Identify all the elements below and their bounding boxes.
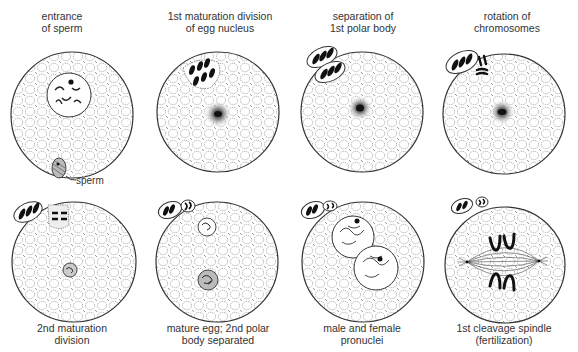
label-line: male and female (292, 322, 432, 334)
stage-label-second-maturation-division: 2nd maturation division (2, 322, 142, 346)
label-line: separation of (293, 10, 433, 22)
stage-label-separation-first-polar-body: separation of 1st polar body (293, 10, 433, 34)
label-line: rotation of (437, 10, 577, 22)
label-line: 2nd maturation (2, 322, 142, 334)
egg-male-female-pronuclei (290, 190, 435, 320)
stage-label-first-maturation-division: 1st maturation division of egg nucleus (140, 10, 300, 34)
egg-rotation-of-chromosomes (432, 40, 577, 185)
label-line: pronuclei (292, 334, 432, 346)
label-line: of sperm (0, 22, 132, 34)
label-line: (fertilization) (434, 334, 574, 346)
egg-second-maturation-division (0, 190, 145, 320)
label-line: of egg nucleus (140, 22, 300, 34)
stage-label-rotation-of-chromosomes: rotation of chromosomes (437, 10, 577, 34)
egg-first-maturation-division (143, 40, 288, 185)
label-line: chromosomes (437, 22, 577, 34)
stage-label-male-female-pronuclei: male and female pronuclei (292, 322, 432, 346)
egg-first-cleavage-spindle (432, 190, 577, 320)
egg-separation-first-polar-body (290, 40, 435, 185)
label-line: 1st cleavage spindle (434, 322, 574, 334)
stage-label-entrance-of-sperm: entrance of sperm (0, 10, 132, 34)
egg-mature (145, 190, 290, 320)
label-line: 1st polar body (293, 22, 433, 34)
label-line: entrance (0, 10, 132, 22)
label-line: mature egg; 2nd polar (143, 322, 293, 334)
label-line: 1st maturation division (140, 10, 300, 22)
egg-entrance-of-sperm (0, 40, 145, 190)
sperm-annotation: sperm (76, 175, 104, 186)
stage-label-first-cleavage-spindle: 1st cleavage spindle (fertilization) (434, 322, 574, 346)
label-line: division (2, 334, 142, 346)
label-line: body separated (143, 334, 293, 346)
stage-label-mature-egg: mature egg; 2nd polar body separated (143, 322, 293, 346)
